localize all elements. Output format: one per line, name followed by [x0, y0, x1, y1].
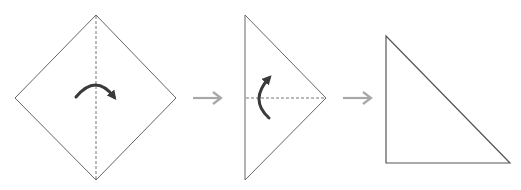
right-arrow-icon — [193, 92, 221, 104]
right-arrow-icon — [343, 92, 371, 104]
step-1-diamond — [15, 15, 176, 180]
step-3-right-triangle — [386, 36, 510, 163]
step-2-triangle — [245, 15, 326, 180]
origami-diagram — [0, 0, 521, 190]
